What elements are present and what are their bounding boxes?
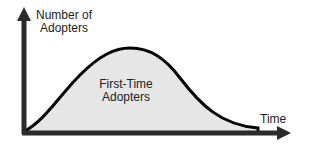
y-axis-label-line2: Adopters <box>36 22 92 35</box>
x-axis-label: Time <box>260 113 286 126</box>
y-axis-label: Number of Adopters <box>36 9 92 35</box>
y-axis-arrow-icon <box>17 7 31 21</box>
area-label: First-Time Adopters <box>96 78 156 104</box>
x-axis-arrow-icon <box>277 126 291 140</box>
area-label-line2: Adopters <box>96 91 156 104</box>
